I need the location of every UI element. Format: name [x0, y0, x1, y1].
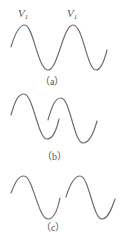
panel-c: （c）: [11, 176, 115, 233]
panel-a: V1 V1 （a）: [11, 7, 107, 87]
wave-a: [11, 25, 107, 70]
caption-a: （a）: [40, 76, 64, 87]
wave-c-2: [66, 176, 115, 219]
caption-b: （b）: [42, 151, 67, 162]
wave-figure: V1 V1 （a） （b） （c）: [0, 0, 133, 243]
peak-label-2: V1: [67, 7, 77, 21]
wave-b-1: [11, 94, 59, 139]
wave-b-2: [48, 98, 97, 143]
wave-c-1: [11, 176, 60, 219]
panel-b: （b）: [11, 94, 97, 162]
caption-c: （c）: [41, 222, 65, 233]
peak-label-1: V1: [18, 7, 28, 21]
